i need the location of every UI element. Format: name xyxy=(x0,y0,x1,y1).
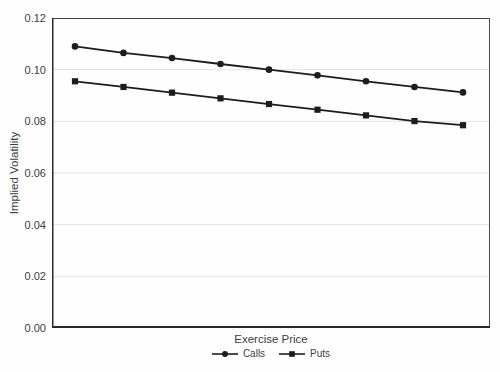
x-axis-title: Exercise Price xyxy=(52,333,490,345)
calls-circle-marker-icon xyxy=(212,349,238,359)
data-point-puts xyxy=(460,122,466,128)
data-point-calls xyxy=(411,84,418,91)
y-tick-label: 0.10 xyxy=(0,64,46,76)
legend-item-puts: Puts xyxy=(279,349,330,359)
data-point-puts xyxy=(411,118,417,124)
y-tick-label: 0.02 xyxy=(0,270,46,282)
data-point-puts xyxy=(363,112,369,118)
y-tick-label: 0.12 xyxy=(0,12,46,24)
implied-volatility-chart: Implied Volatility 0.000.020.040.060.080… xyxy=(0,0,500,372)
data-point-puts xyxy=(169,90,175,96)
y-tick-label: 0.00 xyxy=(0,322,46,334)
y-tick-label: 0.06 xyxy=(0,167,46,179)
plot-canvas xyxy=(52,18,490,328)
data-point-calls xyxy=(72,43,79,50)
data-point-calls xyxy=(266,66,273,73)
plot-area xyxy=(52,18,490,328)
data-point-calls xyxy=(120,50,127,57)
data-point-puts xyxy=(72,78,78,84)
data-point-calls xyxy=(363,78,370,85)
data-point-calls xyxy=(314,72,321,79)
y-tick-label: 0.04 xyxy=(0,219,46,231)
data-point-calls xyxy=(169,55,176,62)
data-point-puts xyxy=(217,95,223,101)
puts-square-marker-icon xyxy=(279,349,305,359)
data-point-puts xyxy=(120,84,126,90)
data-point-puts xyxy=(266,101,272,107)
legend-label: Calls xyxy=(243,349,265,359)
legend: CallsPuts xyxy=(52,348,490,360)
legend-label: Puts xyxy=(310,349,330,359)
y-tick-label: 0.08 xyxy=(0,115,46,127)
legend-item-calls: Calls xyxy=(212,349,265,359)
data-point-calls xyxy=(460,89,467,96)
data-point-calls xyxy=(217,61,224,68)
data-point-puts xyxy=(314,107,320,113)
